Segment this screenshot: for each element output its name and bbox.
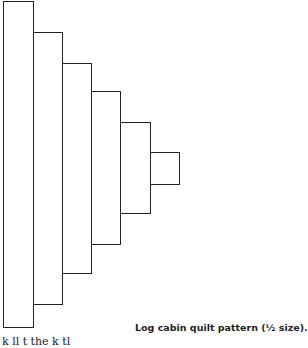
cutoff-body-text: k ll t the k tl xyxy=(2,335,70,348)
quilt-strip-3 xyxy=(62,63,92,274)
quilt-strip-5 xyxy=(120,122,151,214)
quilt-strip-1 xyxy=(3,1,34,328)
quilt-strip-6 xyxy=(150,152,180,185)
figure-caption: Log cabin quilt pattern (½ size). xyxy=(135,322,308,333)
quilt-strip-4 xyxy=(91,91,121,245)
quilt-strip-2 xyxy=(33,32,63,305)
